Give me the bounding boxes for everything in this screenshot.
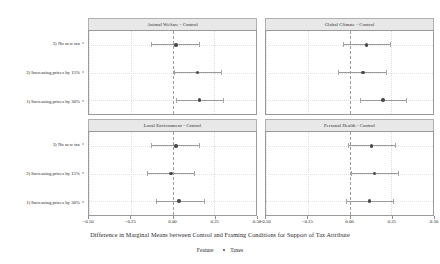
confidence-interval-cap — [360, 98, 361, 103]
facet-strip-label: Global Climate - Control — [265, 18, 434, 30]
confidence-interval-cap — [199, 143, 200, 148]
y-axis: 3) No new tax2) Increasing prices by 15%… — [0, 18, 84, 216]
gridline-vertical — [433, 31, 434, 114]
y-axis-tick-mark — [82, 173, 84, 174]
y-axis-tick-label: 1) Increasing prices by 30% — [26, 199, 80, 204]
x-axis-tick-label: 0.50 — [430, 219, 438, 224]
x-axis-tick-label: −0.50 — [259, 219, 270, 224]
legend-title-group: Feature — [197, 247, 214, 253]
confidence-interval-cap — [194, 171, 195, 176]
facet-panel: Personal Health - Control — [265, 119, 434, 216]
confidence-interval-cap — [398, 171, 399, 176]
faceted-coefficient-plot: 3) No new tax2) Increasing prices by 15%… — [0, 0, 440, 264]
y-axis-tick-mark — [82, 43, 84, 44]
gridline-vertical — [256, 31, 257, 114]
facet-plot-area — [265, 30, 434, 115]
confidence-interval-cap — [151, 42, 152, 47]
y-axis-tick-label: 1) Increasing prices by 30% — [26, 98, 80, 103]
facet-plot-area — [88, 131, 257, 216]
confidence-interval-cap — [390, 42, 391, 47]
legend-entry-label: Taxes — [230, 247, 243, 253]
x-axis-tick-label: −0.25 — [302, 219, 313, 224]
estimate-point — [368, 199, 371, 202]
x-axis-tick-label: 0.25 — [388, 219, 396, 224]
x-axis-tick-label: 0.25 — [211, 219, 219, 224]
estimate-point — [174, 144, 177, 147]
facet-strip-label: Personal Health - Control — [265, 119, 434, 131]
y-axis-tick-label: 3) No new tax — [53, 142, 80, 147]
facet-panel: Local Environment - Control — [88, 119, 257, 216]
confidence-interval-cap — [204, 199, 205, 204]
facet-plot-area — [265, 131, 434, 216]
facet-plot-area — [88, 30, 257, 115]
facet-panel-grid: Animal Welfare - ControlGlobal Climate -… — [88, 18, 434, 216]
estimate-point — [361, 71, 364, 74]
x-axis-title: Difference in Marginal Means between Con… — [0, 231, 440, 238]
facet-strip-label: Local Environment - Control — [88, 119, 257, 131]
facet-panel: Animal Welfare - Control — [88, 18, 257, 115]
y-axis-tick-mark — [82, 201, 84, 202]
gridline-vertical — [256, 132, 257, 215]
facet-strip-label: Animal Welfare - Control — [88, 18, 257, 30]
estimate-point — [177, 199, 180, 202]
y-axis-tick-label: 2) Increasing prices by 15% — [26, 171, 80, 176]
estimate-point — [174, 43, 177, 46]
confidence-interval-cap — [393, 199, 394, 204]
gridline-vertical — [433, 132, 434, 215]
confidence-interval-cap — [176, 98, 177, 103]
legend: Feature Taxes — [0, 247, 440, 253]
y-axis-tick-label: 3) No new tax — [53, 41, 80, 46]
y-axis-tick-mark — [82, 72, 84, 73]
facet-panel: Global Climate - Control — [265, 18, 434, 115]
confidence-interval-cap — [147, 171, 148, 176]
confidence-interval-cap — [351, 171, 352, 176]
confidence-interval-cap — [386, 70, 387, 75]
confidence-interval-cap — [223, 98, 224, 103]
confidence-interval-cap — [343, 42, 344, 47]
confidence-interval-cap — [348, 143, 349, 148]
estimate-point — [370, 144, 373, 147]
estimate-point — [169, 172, 172, 175]
y-axis-tick-mark — [82, 144, 84, 145]
y-axis-tick-label: 2) Increasing prices by 15% — [26, 70, 80, 75]
estimate-point — [196, 71, 199, 74]
y-axis-tick-mark — [82, 100, 84, 101]
confidence-interval-cap — [406, 98, 407, 103]
x-axis-tick-label: 0.00 — [168, 219, 176, 224]
confidence-interval-cap — [395, 143, 396, 148]
confidence-interval-cap — [156, 199, 157, 204]
confidence-interval-cap — [221, 70, 222, 75]
legend-title: Feature — [197, 247, 214, 253]
estimate-point — [365, 43, 368, 46]
confidence-interval-cap — [151, 143, 152, 148]
estimate-point — [373, 172, 376, 175]
legend-entry-taxes: Taxes — [223, 247, 244, 253]
confidence-interval-cap — [346, 199, 347, 204]
confidence-interval-cap — [199, 42, 200, 47]
confidence-interval-cap — [174, 70, 175, 75]
estimate-point — [198, 98, 201, 101]
estimate-point — [381, 98, 384, 101]
x-axis-tick-label: 0.00 — [345, 219, 353, 224]
x-axis-tick-label: −0.50 — [82, 219, 93, 224]
x-axis-tick-label: −0.25 — [125, 219, 136, 224]
legend-point-icon — [223, 249, 226, 252]
confidence-interval-cap — [338, 70, 339, 75]
